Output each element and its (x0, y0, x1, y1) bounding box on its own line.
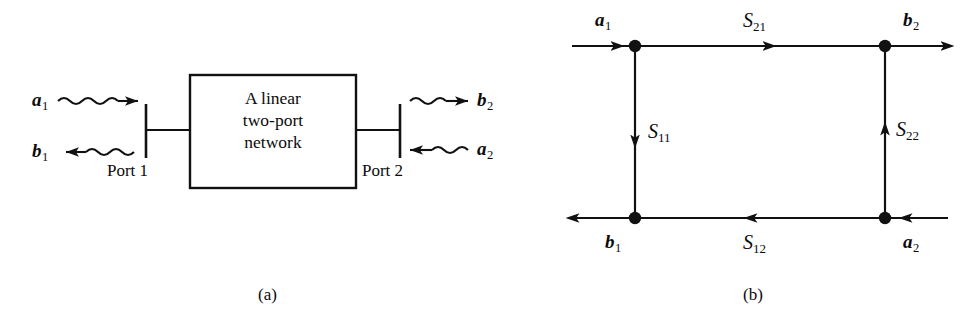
wave-label-a1: a1 (32, 90, 48, 112)
node-label-b2: b2 (903, 10, 919, 32)
node-label-a2: a2 (903, 232, 919, 254)
wave-arrow-a2 (410, 147, 468, 153)
network-box-line-2: two-port (190, 109, 356, 131)
branch-label-s11: S11 (648, 121, 671, 144)
wave-label-b1: b1 (32, 141, 48, 163)
caption-a: (a) (258, 286, 277, 303)
panel-b-artwork (572, 40, 948, 224)
port-1-terminal (146, 104, 190, 158)
branch-label-s22: S22 (896, 119, 919, 142)
caption-b: (b) (743, 286, 763, 303)
wave-label-a2: a2 (477, 139, 493, 161)
port-2-label: Port 2 (362, 162, 403, 179)
branch-label-s21: S21 (743, 10, 766, 33)
node-a1 (629, 40, 641, 52)
node-b2 (879, 40, 891, 52)
network-box-label: A linear two-port network (190, 87, 356, 154)
port-2-terminal (356, 104, 400, 158)
node-b1 (629, 212, 641, 224)
wave-arrow-b2 (410, 98, 468, 104)
network-box-line-1: A linear (190, 87, 356, 109)
node-label-a1: a1 (595, 10, 611, 32)
node-a2 (879, 212, 891, 224)
branch-label-s12: S12 (743, 232, 766, 255)
wave-arrow-b1 (66, 149, 134, 155)
node-label-b1: b1 (605, 232, 621, 254)
figure-two-port-network: a1 b1 b2 a2 Port 1 Port 2 A linear two-p… (0, 0, 972, 322)
wave-arrow-a1 (58, 98, 138, 104)
port-1-label: Port 1 (107, 162, 148, 179)
wave-label-b2: b2 (477, 90, 493, 112)
network-box-line-3: network (190, 131, 356, 153)
